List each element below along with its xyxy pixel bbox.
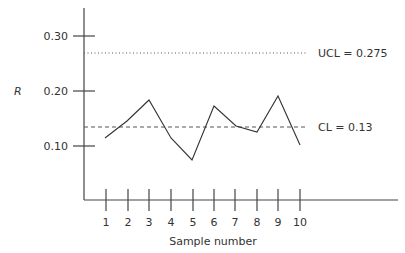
x-tick-label: 6 xyxy=(211,216,218,229)
r-series-line xyxy=(105,96,300,160)
x-tick-label: 1 xyxy=(103,216,110,229)
y-tick-label: 0.10 xyxy=(44,140,69,153)
cl-label: CL = 0.13 xyxy=(318,121,373,134)
x-tick-label: 5 xyxy=(190,216,197,229)
x-tick-label: 9 xyxy=(275,216,282,229)
x-tick-label: 7 xyxy=(232,216,239,229)
x-tick-label: 4 xyxy=(168,216,175,229)
ucl-label: UCL = 0.275 xyxy=(318,47,388,60)
x-tick-label: 8 xyxy=(254,216,261,229)
control-chart: 0.30 0.20 0.10 R 1 2 3 4 5 6 7 8 9 10 Sa… xyxy=(0,0,405,253)
y-axis-label: R xyxy=(14,85,22,98)
x-tick-label: 3 xyxy=(146,216,153,229)
x-tick-label: 10 xyxy=(293,216,307,229)
x-axis-label: Sample number xyxy=(169,235,257,248)
y-tick-label: 0.30 xyxy=(44,30,69,43)
y-tick-label: 0.20 xyxy=(44,85,69,98)
x-tick-label: 2 xyxy=(125,216,132,229)
